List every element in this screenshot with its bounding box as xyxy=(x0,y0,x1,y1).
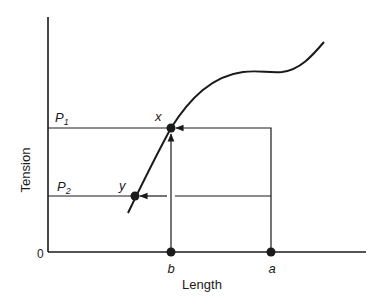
point-y-label: y xyxy=(118,178,127,193)
point-y xyxy=(131,192,140,201)
a-label: a xyxy=(268,261,275,276)
p1-label: P1 xyxy=(55,110,69,127)
point-b xyxy=(167,248,176,257)
point-a xyxy=(267,248,276,257)
origin-label: 0 xyxy=(37,247,44,261)
b-label: b xyxy=(167,261,174,276)
x-axis-label: Length xyxy=(182,277,222,292)
point-x-label: x xyxy=(154,109,162,124)
tension-length-diagram: Tension Length 0 P1 P2 x y b a xyxy=(0,0,383,306)
point-x xyxy=(167,124,176,133)
a-to-x-arrow xyxy=(176,128,271,252)
y-axis-label: Tension xyxy=(18,148,33,193)
p2-label: P2 xyxy=(57,179,71,196)
